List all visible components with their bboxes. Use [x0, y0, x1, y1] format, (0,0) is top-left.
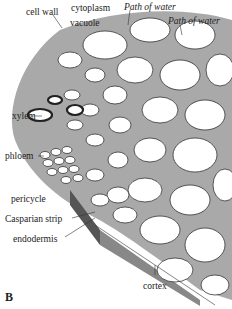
- root-cross-section-diagram: cell wall cytoplasm vacuole Path of wate…: [0, 0, 232, 309]
- figure-label: B: [5, 290, 13, 305]
- label-cell-wall: cell wall: [26, 7, 58, 17]
- label-phloem: phloem: [5, 151, 34, 161]
- label-path-of-water-1: Path of water: [124, 2, 176, 12]
- label-pericycle: pericycle: [11, 194, 46, 204]
- label-vacuole: vacuole: [70, 18, 100, 28]
- label-cortex: cortex: [143, 281, 167, 291]
- label-endodermis: endodermis: [13, 234, 57, 244]
- label-cytoplasm: cytoplasm: [71, 3, 110, 13]
- cell-tissue-illustration: [0, 0, 232, 309]
- label-casparian-strip: Casparian strip: [5, 214, 62, 224]
- label-xylem: xylem: [12, 111, 36, 121]
- label-path-of-water-2: Path of water: [168, 16, 220, 26]
